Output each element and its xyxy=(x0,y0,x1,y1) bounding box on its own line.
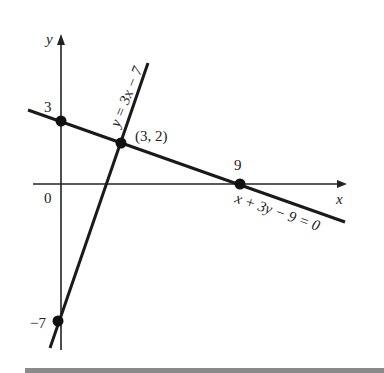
point-9-0 xyxy=(235,179,246,190)
line-x-plus-3y-minus-9 xyxy=(28,110,345,222)
point-0-3 xyxy=(56,116,67,127)
x-axis-label: x xyxy=(335,191,343,207)
label-3-2: (3, 2) xyxy=(135,128,168,145)
equation-line1-label: x + 3y − 9 = 0 xyxy=(232,189,322,233)
label-3: 3 xyxy=(44,99,52,115)
point-0-neg7 xyxy=(53,316,64,327)
diagram: y x 0 3 (3, 2) 9 −7 y = 3x − 7 x + 3y − … xyxy=(0,0,384,373)
bottom-divider-bar xyxy=(25,368,384,373)
label-9: 9 xyxy=(234,157,242,173)
x-axis-arrow-icon xyxy=(337,180,347,188)
y-axis-arrow-icon xyxy=(57,34,65,45)
line-y-eq-3x-minus-7 xyxy=(50,63,148,348)
y-axis-label: y xyxy=(44,31,53,47)
point-3-2 xyxy=(116,138,127,149)
origin-label: 0 xyxy=(44,190,52,206)
label-neg7: −7 xyxy=(30,315,46,331)
equation-line2-label: y = 3x − 7 xyxy=(106,63,146,131)
